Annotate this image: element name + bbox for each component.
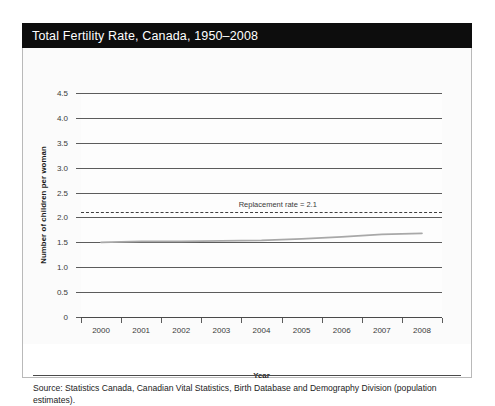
x-axis-tick [442, 318, 443, 323]
x-axis-tick [322, 318, 323, 323]
x-axis-tick [81, 318, 82, 323]
y-axis-tick-label: 2.0 [57, 213, 68, 222]
x-axis-tick-label: 2008 [413, 326, 431, 335]
x-axis-tick-label: 2004 [253, 326, 271, 335]
x-axis-line [81, 317, 442, 318]
x-axis-tick [282, 318, 283, 323]
series-line-total-fertility-rate [101, 233, 422, 242]
x-axis-tick-label: 2002 [172, 326, 190, 335]
x-axis-tick-label: 2001 [132, 326, 150, 335]
chart-body: Number of children per woman 00.51.01.52… [23, 48, 471, 344]
y-axis-tick-label: 3.5 [57, 138, 68, 147]
y-axis-tick-label: 1.5 [57, 238, 68, 247]
page-title: Total Fertility Rate, Canada, 1950–2008 [22, 29, 258, 43]
y-axis-tick-label: 4.0 [57, 113, 68, 122]
x-axis-tick [241, 318, 242, 323]
x-axis-tick [161, 318, 162, 323]
x-axis-tick [402, 318, 403, 323]
x-axis-tick [201, 318, 202, 323]
x-axis-tick-label: 2005 [293, 326, 311, 335]
x-axis-tick-label: 2007 [373, 326, 391, 335]
y-axis-tick-label: 0 [64, 313, 68, 322]
figure-container: Total Fertility Rate, Canada, 1950–2008 … [22, 23, 472, 378]
y-axis-tick-label: 0.5 [57, 288, 68, 297]
y-axis-tick-label: 3.0 [57, 163, 68, 172]
x-axis-tick [362, 318, 363, 323]
x-axis-tick-label: 2000 [92, 326, 110, 335]
plot-area: 00.51.01.52.02.53.03.54.04.5 20002001200… [81, 93, 442, 317]
source-note: Source: Statistics Canada, Canadian Vita… [33, 382, 459, 406]
series-line-group [81, 93, 442, 317]
x-axis-tick-label: 2006 [333, 326, 351, 335]
x-axis-tick-label: 2003 [212, 326, 230, 335]
source-divider [33, 375, 461, 376]
chart-title-bar: Total Fertility Rate, Canada, 1950–2008 [22, 23, 472, 48]
y-axis-tick-label: 4.5 [57, 89, 68, 98]
x-axis-tick [121, 318, 122, 323]
y-axis-title: Number of children per woman [37, 93, 49, 317]
y-axis-tick-label: 1.0 [57, 263, 68, 272]
y-axis-tick-label: 2.5 [57, 188, 68, 197]
